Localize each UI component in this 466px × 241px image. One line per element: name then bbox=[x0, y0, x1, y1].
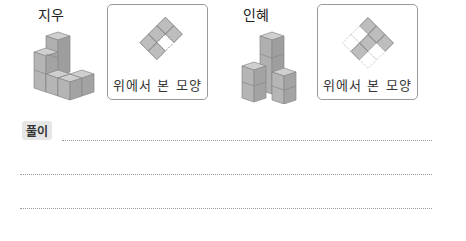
cube-structure-inhye bbox=[240, 28, 304, 104]
solution-label: 풀이 bbox=[22, 121, 52, 140]
answer-line-1[interactable] bbox=[62, 140, 432, 141]
top-view-caption: 위에서 본 모양 bbox=[318, 75, 417, 94]
top-view-caption: 위에서 본 모양 bbox=[108, 75, 207, 94]
cube-structure-jiwoo bbox=[30, 28, 100, 104]
answer-line-3[interactable] bbox=[20, 208, 432, 209]
top-view-box-inhye: 위에서 본 모양 bbox=[317, 4, 418, 100]
student-name-jiwoo: 지우 bbox=[38, 4, 64, 24]
answer-line-2[interactable] bbox=[20, 174, 432, 175]
student-name-inhye: 인혜 bbox=[243, 4, 269, 24]
top-view-box-jiwoo: 위에서 본 모양 bbox=[107, 4, 208, 100]
